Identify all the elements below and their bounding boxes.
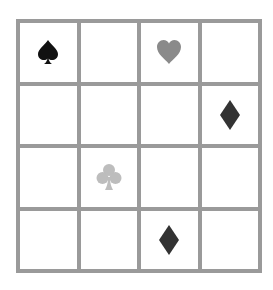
board-cell-r4-c2[interactable] bbox=[81, 211, 138, 270]
heart-icon bbox=[156, 39, 182, 65]
board-cell-r3-c4[interactable] bbox=[202, 148, 259, 207]
board-cell-r3-c1[interactable] bbox=[20, 148, 77, 207]
board-cell-r2-c2[interactable] bbox=[81, 86, 138, 145]
board-cell-r1-c1[interactable] bbox=[20, 23, 77, 82]
board-cell-r2-c4[interactable] bbox=[202, 86, 259, 145]
diamond-icon bbox=[158, 224, 180, 256]
board-cell-r2-c3[interactable] bbox=[141, 86, 198, 145]
spade-icon bbox=[37, 39, 59, 65]
diamond-icon bbox=[219, 99, 241, 131]
board-cell-r3-c3[interactable] bbox=[141, 148, 198, 207]
board-cell-r1-c3[interactable] bbox=[141, 23, 198, 82]
board-cell-r4-c4[interactable] bbox=[202, 211, 259, 270]
board-cell-r1-c4[interactable] bbox=[202, 23, 259, 82]
club-icon bbox=[96, 163, 122, 191]
board-cell-r1-c2[interactable] bbox=[81, 23, 138, 82]
board-cell-r4-c1[interactable] bbox=[20, 211, 77, 270]
board-cell-r2-c1[interactable] bbox=[20, 86, 77, 145]
board-cell-r4-c3[interactable] bbox=[141, 211, 198, 270]
game-board bbox=[16, 19, 262, 273]
board-cell-r3-c2[interactable] bbox=[81, 148, 138, 207]
